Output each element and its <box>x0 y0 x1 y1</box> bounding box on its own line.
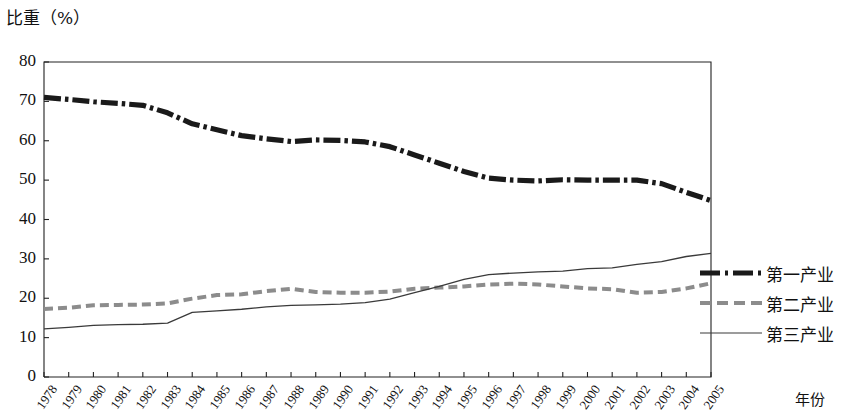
y-tick-label: 60 <box>2 130 36 150</box>
series-line-2 <box>44 283 711 309</box>
legend-swatch-secondary-industry <box>700 296 762 310</box>
y-tick-label: 0 <box>2 366 36 386</box>
legend-swatch-primary-industry <box>700 266 762 280</box>
legend-item-secondary-industry: 第二产业 <box>700 288 864 318</box>
legend-item-tertiary-industry: 第三产业 <box>700 318 864 348</box>
y-tick-label: 80 <box>2 51 36 71</box>
legend-label-primary-industry: 第一产业 <box>766 261 834 286</box>
series-line-3 <box>44 253 711 329</box>
chart-legend: 第一产业 第二产业 第三产业 <box>700 258 864 348</box>
x-axis-title: 年份 <box>795 388 825 409</box>
y-tick-label: 30 <box>2 248 36 268</box>
line-chart-plot-area <box>0 0 864 417</box>
y-tick-label: 40 <box>2 209 36 229</box>
legend-item-primary-industry: 第一产业 <box>700 258 864 288</box>
series-line-1 <box>44 97 711 200</box>
legend-swatch-tertiary-industry <box>700 326 762 340</box>
chart-container: 比重（%） 80706050403020100 1978197919801981… <box>0 0 864 417</box>
y-tick-label: 20 <box>2 287 36 307</box>
legend-label-secondary-industry: 第二产业 <box>766 291 834 316</box>
legend-label-tertiary-industry: 第三产业 <box>766 321 834 346</box>
plot-frame <box>44 62 711 377</box>
y-tick-label: 70 <box>2 90 36 110</box>
y-tick-label: 50 <box>2 169 36 189</box>
y-tick-label: 10 <box>2 327 36 347</box>
